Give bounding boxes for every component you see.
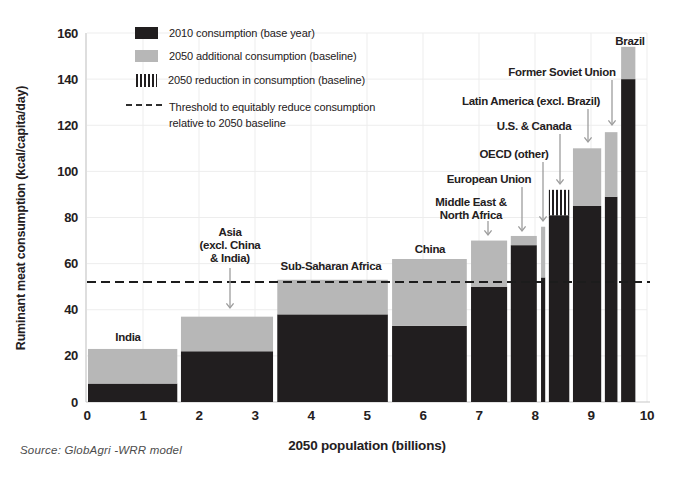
region-arrow-1 [226,268,233,308]
legend-label: 2050 reduction in consumption (baseline) [168,74,365,87]
legend-label: 2050 additional consumption (baseline) [169,50,357,63]
bar-4-2050-additional [471,241,507,287]
x-tick-4: 4 [307,408,315,423]
bar-2-2010-consumption [277,314,388,402]
source-note: Source: GlobAgri -WRR model [20,444,182,456]
x-tick-0: 0 [83,408,90,423]
legend-label: 2010 consumption (base year) [169,27,315,40]
y-tick-20: 20 [64,348,78,363]
chart-figure: 020406080100120140160012345678910Ruminan… [0,0,681,482]
legend-item-threshold: Threshold to equitably reduce consumptio… [125,99,387,131]
region-label-8: Latin America (excl. Brazil) [462,95,601,107]
region-arrow-5 [518,187,525,231]
bar-7-2050-reduction [549,190,569,215]
bar-8-2010-consumption [573,206,601,402]
x-tick-9: 9 [587,408,594,423]
x-tick-10: 10 [640,408,654,423]
x-tick-2: 2 [195,408,202,423]
bar-6-2050-additional [541,227,545,278]
x-tick-5: 5 [363,408,371,423]
region-label-2: Sub-Saharan Africa [281,260,383,272]
bar-9-2050-additional [605,132,618,197]
region-label-1: Asia(excl. China& India) [200,226,262,264]
y-tick-160: 160 [57,26,78,41]
x-tick-7: 7 [475,408,482,423]
legend-item-2050-reduction: 2050 reduction in consumption (baseline) [125,74,365,87]
y-tick-80: 80 [64,210,78,225]
region-label-3: China [415,243,446,255]
chart-svg: 020406080100120140160012345678910Ruminan… [0,0,681,482]
legend-item-2050-additional: 2050 additional consumption (baseline) [125,50,357,63]
bar-0-2050-additional [88,349,177,384]
bar-3-2010-consumption [392,326,467,402]
bar-5-2010-consumption [511,245,537,402]
bar-4-2010-consumption [471,287,507,402]
legend-swatch-2050-reduction-hatch [136,74,157,87]
region-label-0: India [115,331,141,343]
bar-7-2010-consumption [549,215,569,402]
y-tick-120: 120 [57,118,78,133]
region-arrow-6 [539,162,546,221]
x-tick-6: 6 [419,408,427,423]
region-label-7: U.S. & Canada [497,120,573,132]
region-label-10: Brazil [615,35,645,47]
bar-2-2050-additional [277,280,388,315]
region-label-9: Former Soviet Union [508,66,616,78]
bar-1-2010-consumption [181,351,273,402]
x-tick-3: 3 [251,408,259,423]
bar-3-2050-additional [392,259,467,326]
legend-item-2010: 2010 consumption (base year) [125,27,315,40]
legend-label: Threshold to equitably reduce consumptio… [169,99,387,131]
y-tick-60: 60 [64,256,78,271]
legend-swatch-2050-additional [135,50,158,62]
region-arrow-7 [556,134,563,184]
y-tick-0: 0 [71,395,78,410]
y-axis-title: Ruminant meat consumption (kcal/capita/d… [14,86,28,350]
bar-0-2010-consumption [88,384,177,402]
region-arrow-4 [484,221,491,235]
bar-5-2050-additional [511,236,537,245]
region-label-5: European Union [447,173,532,185]
region-arrow-9 [608,80,615,125]
bar-10-2050-additional [621,47,635,79]
bar-10-2010-consumption [621,79,635,402]
x-axis-title: 2050 population (billions) [288,438,446,453]
bar-6-2010-consumption [541,277,545,402]
region-label-4: Middle East &North Africa [435,196,507,221]
legend-swatch-threshold-dashed-line [126,104,162,106]
legend-swatch-2010-consumption [135,27,158,39]
bar-1-2050-additional [181,317,273,352]
x-tick-8: 8 [531,408,539,423]
x-tick-1: 1 [139,408,147,423]
bar-8-2050-additional [573,148,601,206]
y-tick-140: 140 [57,72,78,87]
y-tick-100: 100 [57,164,78,179]
region-label-6: OECD (other) [479,148,549,160]
y-tick-40: 40 [64,302,78,317]
bar-9-2010-consumption [605,197,618,402]
